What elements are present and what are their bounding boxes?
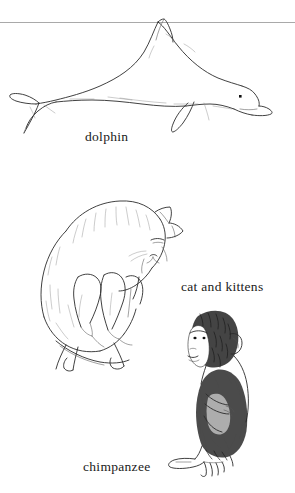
caption-cat-and-kittens: cat and kittens bbox=[181, 280, 263, 294]
caption-chimpanzee: chimpanzee bbox=[83, 460, 150, 474]
caption-dolphin: dolphin bbox=[85, 130, 128, 144]
figure-chimpanzee bbox=[160, 306, 260, 478]
illustration-page: dolphin bbox=[0, 0, 295, 493]
figure-dolphin bbox=[8, 16, 276, 134]
